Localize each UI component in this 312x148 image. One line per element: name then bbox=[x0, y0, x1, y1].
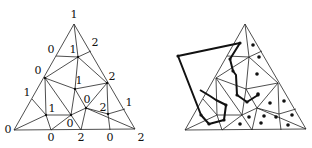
vertex-label: 1 bbox=[24, 86, 31, 99]
vertex-label: 1 bbox=[70, 43, 77, 56]
vertex-label: 2 bbox=[138, 131, 145, 144]
vertex-label: 2 bbox=[78, 131, 85, 144]
inner-path bbox=[230, 43, 258, 102]
vertex-label: 2 bbox=[92, 36, 99, 49]
vertex-label: 0 bbox=[67, 117, 74, 130]
vertex-label: 0 bbox=[48, 43, 55, 56]
vertex-label: 1 bbox=[49, 102, 56, 115]
vertex-label: 2 bbox=[109, 70, 116, 83]
vertex-label: 1 bbox=[126, 96, 133, 109]
vertex-label: 0 bbox=[5, 123, 12, 136]
sperner-figure: 101201211021000202 bbox=[0, 0, 312, 148]
left-triangulation bbox=[14, 24, 135, 130]
walk-paths bbox=[178, 43, 258, 124]
vertex-label: 0 bbox=[48, 131, 55, 144]
right-triangulation bbox=[185, 24, 306, 130]
vertex-label: 0 bbox=[107, 131, 114, 144]
vertex-label: 2 bbox=[100, 101, 107, 114]
vertex-label: 1 bbox=[76, 74, 83, 87]
vertex-label: 1 bbox=[71, 8, 78, 21]
vertex-label: 0 bbox=[84, 93, 91, 106]
vertex-label: 0 bbox=[35, 64, 42, 77]
